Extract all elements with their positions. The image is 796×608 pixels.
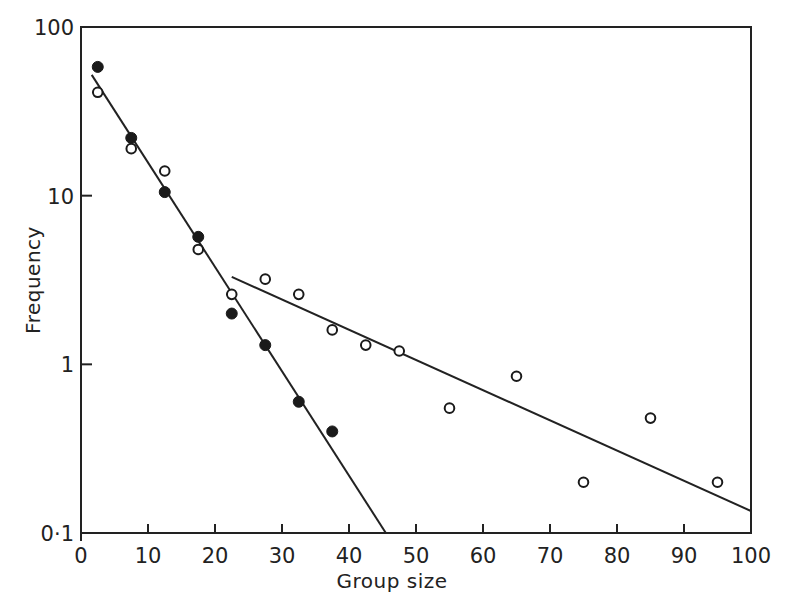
x-tick-label: 0 — [74, 544, 87, 568]
open-circle-marker — [227, 290, 237, 300]
open-circle-marker — [512, 371, 522, 381]
x-tick-label: 10 — [135, 544, 162, 568]
open-circle-marker — [361, 340, 371, 350]
open-circle-marker — [394, 346, 404, 356]
x-tick-label: 30 — [269, 544, 296, 568]
x-tick-label: 70 — [537, 544, 564, 568]
filled-circle-marker — [92, 61, 103, 72]
y-tick-label: 10 — [47, 185, 74, 209]
filled-circle-marker — [193, 231, 204, 242]
x-tick-label: 100 — [731, 544, 771, 568]
x-tick-label: 60 — [470, 544, 497, 568]
open-circle-marker — [126, 144, 136, 154]
frequency-vs-group-size-chart: 0102030405060708090100 0·1110100 Group s… — [0, 0, 796, 608]
filled-circle-marker — [126, 132, 137, 143]
filled-circle-marker — [226, 308, 237, 319]
x-tick-label: 20 — [202, 544, 229, 568]
filled-circle-marker — [327, 426, 338, 437]
plot-frame — [81, 27, 751, 533]
open-circle-marker — [260, 274, 270, 284]
x-tick-label: 40 — [336, 544, 363, 568]
open-circle-marker — [93, 88, 103, 98]
open-circle-marker — [327, 325, 337, 335]
open-circle-marker — [579, 477, 589, 487]
x-tick-label: 50 — [403, 544, 430, 568]
open-circle-marker — [294, 290, 304, 300]
open-circle-marker — [160, 166, 170, 176]
plot-border — [81, 27, 751, 533]
shallow-fit-line — [232, 277, 751, 511]
y-tick-label: 1 — [61, 353, 74, 377]
x-tick-label: 90 — [671, 544, 698, 568]
fit-lines — [92, 75, 751, 533]
open-circle-marker — [193, 245, 203, 255]
filled-circle-marker — [260, 340, 271, 351]
x-axis-title: Group size — [336, 569, 447, 593]
y-axis-title: Frequency — [21, 226, 45, 334]
x-axis: 0102030405060708090100 — [74, 524, 771, 568]
open-circle-marker — [445, 403, 455, 413]
open-circle-marker — [646, 413, 656, 423]
filled-circle-marker — [159, 187, 170, 198]
data-points — [92, 61, 722, 487]
open-circle-marker — [713, 477, 723, 487]
steep-fit-line — [92, 75, 386, 533]
y-tick-label: 0·1 — [41, 522, 74, 546]
y-tick-label: 100 — [34, 16, 74, 40]
x-tick-label: 80 — [604, 544, 631, 568]
filled-circle-marker — [293, 396, 304, 407]
